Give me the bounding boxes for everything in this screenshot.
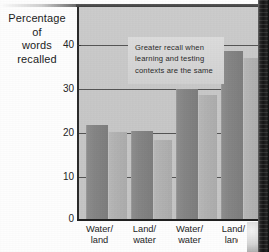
callout-note-line-3: contexts are the same	[135, 65, 218, 76]
x-tick-label-water-water-line-1: Water/	[167, 224, 212, 235]
x-tick-label-land-water: Land/ water	[122, 224, 167, 246]
x-axis-line	[77, 219, 259, 221]
callout-note-line-2: learning and testing	[135, 53, 218, 64]
bar-water-water-light	[198, 95, 217, 220]
y-tick-label-10: 10	[50, 171, 74, 182]
y-tick-label-40: 40	[50, 39, 74, 50]
y-tick-label-0: 0	[50, 213, 74, 224]
x-tick-label-water-water-line-2: water	[167, 235, 212, 246]
y-tick-label-20: 20	[50, 127, 74, 138]
y-axis-line	[77, 7, 79, 221]
bar-land-land-dark	[221, 51, 243, 220]
x-tick-label-land-water-line-2: water	[122, 235, 167, 246]
bar-water-land-dark	[86, 125, 108, 220]
y-tick-label-30: 30	[50, 83, 74, 94]
x-tick-label-land-water-line-1: Land/	[122, 224, 167, 235]
page-scan-right-edge-texture	[259, 0, 268, 252]
x-tick-label-water-land-line-1: Water/	[77, 224, 122, 235]
bar-land-water-light	[153, 140, 172, 220]
x-tick-label-water-land-line-2: land	[77, 235, 122, 246]
x-tick-label-water-water: Water/ water	[167, 224, 212, 246]
x-tick-label-water-land: Water/ land	[77, 224, 122, 246]
bar-water-land-light	[108, 132, 127, 220]
y-axis-label-line-1: Percentage of	[4, 12, 70, 39]
callout-note-line-1: Greater recall when	[135, 42, 218, 53]
figure-bar-chart-context-dependent-memory: Percentage of words recalled 40 30 20 10…	[0, 0, 269, 252]
bar-water-water-dark	[176, 89, 198, 220]
page-scan-top-rule-fade	[0, 4, 76, 7]
bar-land-water-dark	[131, 131, 153, 220]
callout-note: Greater recall when learning and testing…	[128, 37, 224, 84]
